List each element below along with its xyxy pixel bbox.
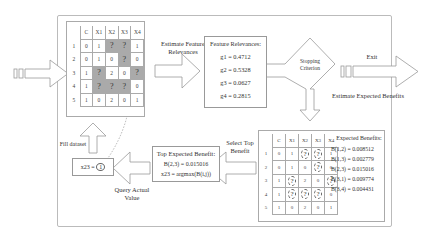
benefit-value: B(1,3) = 0.002779 [331,154,385,164]
table-row: 5 10 20 1 [260,201,338,215]
argmax-formula: x23 = argmax(B(i,j)) [153,171,219,179]
exit-label: Exit [360,53,384,61]
benefit-value: B(3,1) = 0.009774 [331,174,385,184]
estimate-benefits-label: Estimate Expected Benefits [318,92,418,100]
relevance-value: g2 = 0.5328 [205,63,266,76]
table-row: 2 01 0? 0 [260,161,338,175]
column-header: X3 [118,26,131,39]
expected-benefits-title: Expected Benefits: [333,135,385,143]
column-header: X4 [131,26,144,39]
benefit-value: B(2,3) = 0.015016 [331,164,385,174]
column-header: C [80,26,93,39]
table-row: 1 01 ?? 1 [260,147,338,161]
column-header: X2 [105,26,118,39]
expected-benefits-box: C X1 X2 X3 X4 1 01 ?? 1 2 01 0? 0 3 1? 2… [258,130,385,222]
table-row: 3 1? 20 ? [68,66,144,80]
table-row: 1 01 ?? 1 [68,39,144,53]
dataset-table: C X1 X2 X3 X4 1 01 ?? 1 2 01 0? 0 3 1? 2… [68,26,144,107]
feature-relevances-title: Feature Relevances: [205,40,266,48]
top-benefit-box: Top Expected Benefit: B(2,3) = 0.015016 … [152,146,220,182]
fill-dataset-label: Fill dataset [56,141,90,149]
table-row: 4 1? ?? 0 [68,80,144,94]
relevance-value: g3 = 0.0627 [205,76,266,89]
queried-value-box: x23 = 1 [72,158,114,176]
column-header: X1 [93,26,106,39]
relevance-value: g4 = 0.2815 [205,89,266,102]
dataset-table-box: C X1 X2 X3 X4 1 01 ?? 1 2 01 0? 0 3 1? 2… [66,21,145,117]
benefit-value: B(3,4) = 0.004431 [331,184,385,194]
stopping-criterion-label: Stopping Criterion [290,58,330,72]
relevance-value: g1 = 0.4712 [205,50,266,63]
candidate-table: C X1 X2 X3 X4 1 01 ?? 1 2 01 0? 0 3 1? 2… [260,134,338,215]
top-benefit-value: B(2,3) = 0.015016 [153,161,219,169]
feature-relevances-box: Feature Relevances: g1 = 0.4712 g2 = 0.5… [204,36,267,108]
queried-value: x23 = 1 [73,164,113,172]
query-actual-label: Query Actual Value [108,186,156,201]
table-row: 5 10 20 1 [68,93,144,107]
top-benefit-title: Top Expected Benefit: [153,150,219,158]
select-top-label: Select Top Benefit [222,139,258,154]
table-row: 4 1? ?? 0 [260,188,338,202]
table-row: 3 1? 20 ? [260,174,338,188]
benefit-value: B(1,2) = 0.008512 [331,144,385,154]
table-row: 2 01 0? 0 [68,53,144,67]
